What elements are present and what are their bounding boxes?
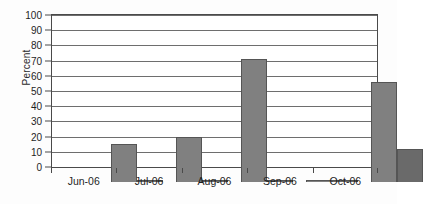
x-axis-category-label: Jun-06 [51,175,116,187]
bar [371,82,397,182]
x-axis-tick-mark [313,168,314,173]
bar-group [299,30,364,182]
bar-group [169,30,234,182]
x-axis-tick-mark [377,168,378,173]
x-axis-tick-mark [182,168,183,173]
y-axis-tick-label: 10 [31,146,42,157]
bar-group [104,30,169,182]
gridline [52,15,377,16]
y-axis-tick-container: 0102030405060708090100 [0,14,51,168]
x-axis-category-label: Jul-06 [116,175,181,187]
bar [241,59,267,182]
y-axis-tick-label: 50 [31,86,42,97]
bar [397,149,423,182]
y-axis-tick-label: 80 [31,40,42,51]
y-axis-tick-label: 60 [31,70,42,81]
plot-area [51,14,378,168]
x-axis-category-label: Aug-06 [182,175,247,187]
x-axis-category-label: Oct-06 [313,175,378,187]
y-axis-tick-label: 20 [31,131,42,142]
x-axis-tick-mark [51,168,52,173]
bar-group [234,30,299,182]
x-axis-tick-mark [247,168,248,173]
bars-layer [104,30,427,182]
x-axis-tick-container [51,168,378,174]
y-axis-tick-label: 30 [31,116,42,127]
bar-group [364,30,427,182]
y-axis-tick-label: 100 [25,10,42,21]
y-axis-tick-label: 0 [36,162,42,173]
x-axis-tick-mark [116,168,117,173]
y-axis-tick-label: 40 [31,101,42,112]
y-axis-tick-label: 90 [31,25,42,36]
x-axis-category-label: Sep-06 [247,175,312,187]
y-axis-tick-label: 70 [31,55,42,66]
x-axis-label-container: Jun-06Jul-06Aug-06Sep-06Oct-06 [51,175,378,187]
